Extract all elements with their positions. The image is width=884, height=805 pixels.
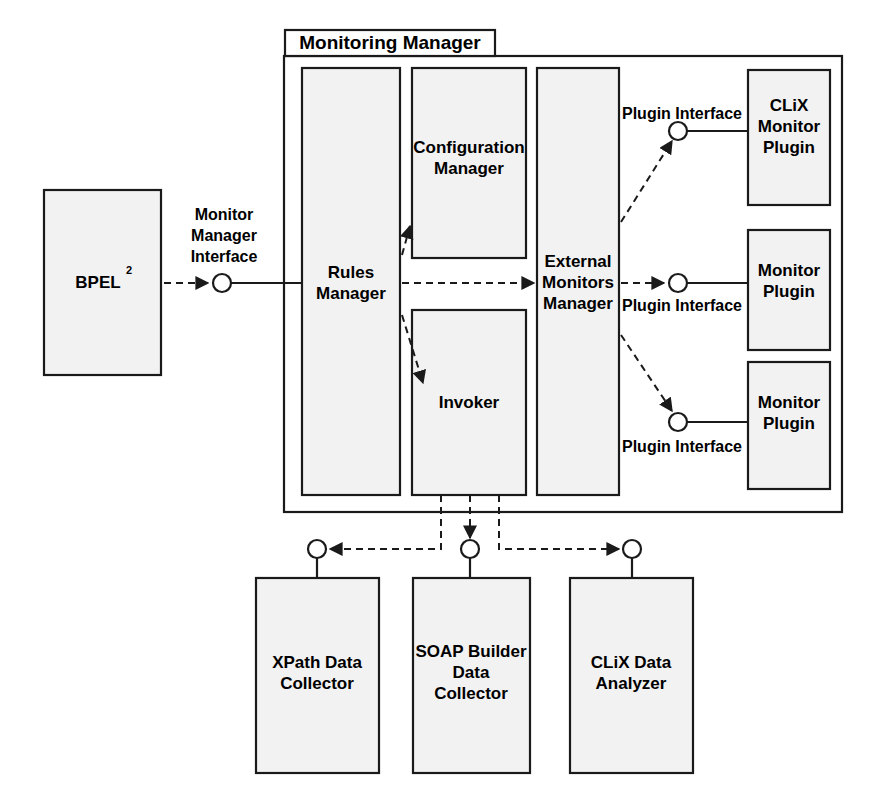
monitor-plugin-2-component: Monitor Plugin — [748, 230, 830, 350]
clix-monitor-plugin-label-line1: CLiX — [770, 96, 809, 115]
rules-manager-component: Rules Manager — [302, 68, 400, 495]
plugin-interface-3-circle — [669, 413, 687, 431]
external-monitors-manager-component: External Monitors Manager — [537, 68, 619, 495]
invoker-to-xpath-connector — [330, 495, 441, 549]
clix-data-analyzer-label-line2: Analyzer — [596, 674, 667, 693]
soap-builder-data-collector-label-line3: Collector — [434, 684, 508, 703]
plugin-interface-1-label: Plugin Interface — [622, 105, 742, 122]
bpel-label: BPEL — [75, 273, 120, 292]
plugin-interface-3: Plugin Interface — [621, 335, 748, 455]
clix-data-analyzer-interface-circle — [623, 540, 641, 558]
architecture-diagram: Monitoring Manager BPEL 2 Monitor Manage… — [0, 0, 884, 805]
monitoring-manager-title: Monitoring Manager — [299, 32, 481, 53]
external-monitors-manager-label-line1: External — [544, 252, 611, 271]
monitor-manager-interface-label-line3: Interface — [191, 248, 258, 265]
rules-to-configuration-arrow — [402, 226, 410, 255]
clix-data-analyzer-label-line1: CLiX Data — [591, 653, 672, 672]
monitor-manager-interface-label-line1: Monitor — [195, 206, 254, 223]
soap-builder-data-collector-component: SOAP Builder Data Collector — [413, 540, 530, 773]
xpath-data-collector-interface-circle — [308, 540, 326, 558]
bpel-component: BPEL 2 — [44, 190, 161, 375]
monitor-plugin-2-label-line2: Plugin — [763, 282, 815, 301]
monitor-manager-interface-label-line2: Manager — [191, 227, 257, 244]
external-monitors-manager-label-line2: Monitors — [542, 273, 614, 292]
configuration-manager-component: Configuration Manager — [412, 68, 526, 258]
xpath-data-collector-label-line2: Collector — [280, 674, 354, 693]
configuration-manager-label-line1: Configuration — [413, 138, 524, 157]
monitor-plugin-3-label-line2: Plugin — [763, 414, 815, 433]
monitor-manager-interface: Monitor Manager Interface — [164, 206, 302, 292]
xpath-data-collector-label-line1: XPath Data — [272, 653, 362, 672]
monitor-plugin-3-label-line1: Monitor — [758, 393, 821, 412]
bpel-superscript: 2 — [126, 264, 132, 276]
rules-manager-label-line2: Manager — [316, 284, 386, 303]
monitor-plugin-3-component: Monitor Plugin — [748, 362, 830, 489]
plugin-interface-1-circle — [669, 122, 687, 140]
plugin-interface-2: Plugin Interface — [621, 274, 748, 314]
clix-data-analyzer-component: CLiX Data Analyzer — [570, 540, 693, 773]
plugin-interface-2-label: Plugin Interface — [622, 297, 742, 314]
monitor-manager-interface-circle — [213, 274, 231, 292]
invoker-component: Invoker — [412, 310, 526, 495]
xpath-data-collector-component: XPath Data Collector — [256, 540, 379, 773]
monitor-plugin-2-label-line1: Monitor — [758, 261, 821, 280]
external-monitors-to-plugin1-arrow — [621, 141, 672, 222]
clix-monitor-plugin-label-line3: Plugin — [763, 138, 815, 157]
diagram-canvas: Monitoring Manager BPEL 2 Monitor Manage… — [0, 0, 884, 805]
clix-monitor-plugin-component: CLiX Monitor Plugin — [748, 70, 830, 205]
soap-builder-data-collector-interface-circle — [461, 540, 479, 558]
soap-builder-data-collector-label-line1: SOAP Builder — [415, 642, 527, 661]
configuration-manager-label-line2: Manager — [434, 159, 504, 178]
plugin-interface-2-circle — [669, 274, 687, 292]
clix-monitor-plugin-label-line2: Monitor — [758, 117, 821, 136]
external-monitors-manager-label-line3: Manager — [543, 294, 613, 313]
plugin-interface-1: Plugin Interface — [621, 105, 748, 222]
rules-manager-label-line1: Rules — [328, 263, 374, 282]
invoker-label: Invoker — [439, 393, 500, 412]
plugin-interface-3-label: Plugin Interface — [622, 438, 742, 455]
soap-builder-data-collector-label-line2: Data — [453, 663, 490, 682]
invoker-to-clix-connector — [499, 495, 619, 549]
external-monitors-to-plugin3-arrow — [621, 335, 672, 411]
